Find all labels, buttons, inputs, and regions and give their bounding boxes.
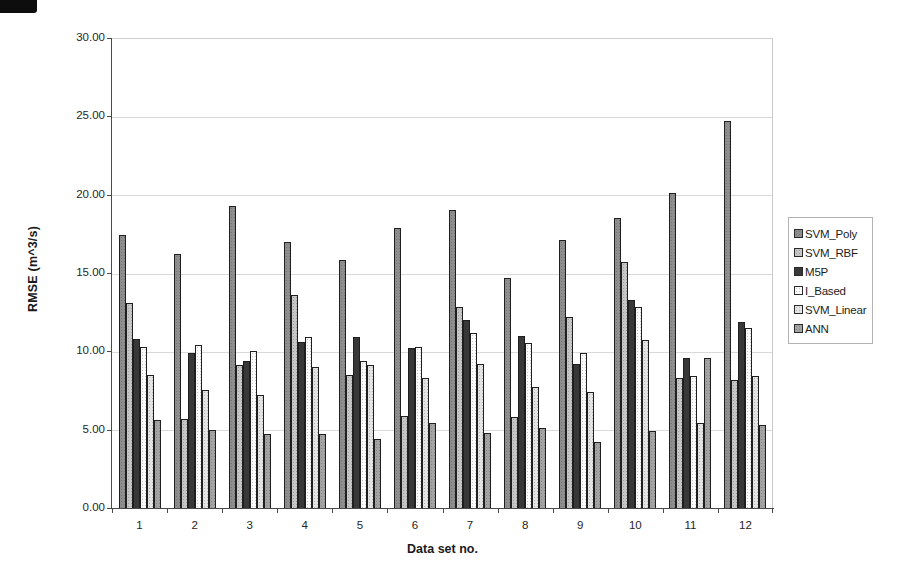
legend-item-M5P: M5P (794, 262, 869, 281)
x-tick-mark (772, 509, 773, 513)
legend-item-I_Based: I_Based (794, 281, 869, 300)
bar-ANN-8 (539, 428, 546, 508)
y-tick-label-5.00: 5.00 (45, 423, 105, 435)
bar-group-11 (663, 39, 718, 508)
x-tick-mark (387, 509, 388, 513)
bar-SVM_Poly-8 (504, 278, 511, 508)
x-tick-label-3: 3 (222, 519, 278, 531)
bar-SVM_RBF-6 (401, 416, 408, 508)
bar-M5P-10 (628, 300, 635, 508)
x-tick-mark (277, 509, 278, 513)
bar-ANN-3 (264, 434, 271, 508)
x-tick-mark (663, 509, 664, 513)
plot-area (112, 38, 773, 508)
x-tick-mark (443, 509, 444, 513)
bar-M5P-8 (518, 336, 525, 508)
bar-I_Based-8 (525, 343, 532, 508)
bar-M5P-1 (133, 339, 140, 508)
legend-item-SVM_Poly: SVM_Poly (794, 224, 869, 243)
y-axis-line (111, 38, 112, 509)
bar-I_Based-11 (690, 376, 697, 508)
bar-I_Based-7 (470, 333, 477, 508)
bar-group-10 (608, 39, 663, 508)
y-tick-mark (107, 38, 111, 39)
bar-SVM_RBF-4 (291, 295, 298, 508)
bar-group-5 (332, 39, 387, 508)
x-tick-label-2: 2 (167, 519, 223, 531)
bar-SVM_Linear-8 (532, 387, 539, 508)
bar-SVM_Poly-3 (229, 206, 236, 508)
legend-item-SVM_RBF: SVM_RBF (794, 243, 869, 262)
legend-label-M5P: M5P (805, 266, 828, 278)
x-tick-mark (332, 509, 333, 513)
bar-group-4 (277, 39, 332, 508)
bar-SVM_RBF-3 (236, 365, 243, 508)
bar-ANN-6 (429, 423, 436, 508)
bar-I_Based-12 (745, 328, 752, 508)
bar-SVM_Linear-9 (587, 392, 594, 508)
legend-swatch-SVM_RBF (794, 248, 803, 257)
bar-M5P-5 (353, 337, 360, 508)
bar-ANN-7 (484, 433, 491, 508)
x-tick-label-9: 9 (552, 519, 608, 531)
bar-group-2 (167, 39, 222, 508)
x-axis-line (107, 508, 774, 509)
legend-item-SVM_Linear: SVM_Linear (794, 300, 869, 319)
bar-SVM_Linear-6 (422, 378, 429, 508)
bar-SVM_Linear-3 (257, 395, 264, 508)
y-tick-label-20.00: 20.00 (45, 188, 105, 200)
legend-label-I_Based: I_Based (805, 285, 846, 297)
y-tick-label-30.00: 30.00 (45, 31, 105, 43)
bar-SVM_Linear-12 (752, 376, 759, 508)
bar-group-9 (553, 39, 608, 508)
bar-SVM_Linear-10 (642, 340, 649, 508)
bar-M5P-4 (298, 342, 305, 508)
bar-SVM_Poly-11 (669, 193, 676, 508)
bar-SVM_RBF-9 (566, 317, 573, 508)
bar-group-7 (443, 39, 498, 508)
legend-swatch-SVM_Linear (794, 305, 803, 314)
x-tick-mark (498, 509, 499, 513)
x-tick-label-8: 8 (497, 519, 553, 531)
bar-SVM_Poly-10 (614, 218, 621, 508)
legend-label-ANN: ANN (805, 323, 829, 335)
bar-SVM_RBF-2 (181, 419, 188, 508)
bar-SVM_Poly-5 (339, 260, 346, 508)
y-tick-mark (107, 351, 111, 352)
bar-I_Based-9 (580, 353, 587, 508)
bar-group-3 (222, 39, 277, 508)
legend: SVM_PolySVM_RBFM5PI_BasedSVM_LinearANN (788, 217, 873, 344)
chart-root: RMSE (m^3/s) Data set no. SVM_PolySVM_RB… (0, 0, 914, 583)
x-tick-mark (167, 509, 168, 513)
legend-label-SVM_Linear: SVM_Linear (805, 304, 866, 316)
bar-group-1 (112, 39, 167, 508)
y-tick-mark (107, 116, 111, 117)
bar-I_Based-6 (415, 347, 422, 508)
bar-group-12 (718, 39, 773, 508)
bar-SVM_Linear-11 (697, 423, 704, 508)
bar-I_Based-4 (305, 337, 312, 508)
bar-SVM_Linear-4 (312, 367, 319, 508)
bar-SVM_Poly-6 (394, 228, 401, 508)
bar-I_Based-10 (635, 307, 642, 508)
bar-ANN-5 (374, 439, 381, 508)
bar-SVM_Poly-1 (119, 235, 126, 508)
x-tick-label-5: 5 (332, 519, 388, 531)
bar-SVM_Linear-5 (367, 365, 374, 508)
bar-ANN-2 (209, 430, 216, 508)
y-axis-title: RMSE (m^3/s) (26, 49, 40, 489)
bar-M5P-6 (408, 348, 415, 508)
bar-I_Based-2 (195, 345, 202, 508)
bar-SVM_RBF-8 (511, 417, 518, 508)
bar-SVM_RBF-12 (731, 380, 738, 508)
legend-item-ANN: ANN (794, 319, 869, 338)
x-tick-mark (608, 509, 609, 513)
bar-SVM_RBF-11 (676, 378, 683, 508)
bar-I_Based-1 (140, 347, 147, 508)
x-tick-label-10: 10 (607, 519, 663, 531)
bar-ANN-9 (594, 442, 601, 508)
legend-swatch-SVM_Poly (794, 229, 803, 238)
y-tick-label-10.00: 10.00 (45, 344, 105, 356)
bar-SVM_RBF-1 (126, 303, 133, 508)
x-tick-label-11: 11 (662, 519, 718, 531)
